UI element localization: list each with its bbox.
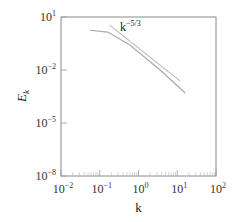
y-tick-label: 10−8: [35, 168, 56, 183]
y-tick-label: 10−5: [35, 115, 56, 130]
y-tick-labels: 10110−210−510−8: [35, 9, 56, 183]
x-tick-label: 101: [171, 181, 187, 196]
major-ticks: [61, 17, 216, 176]
spectrum-line: [90, 30, 185, 93]
x-tick-label: 10−1: [91, 181, 112, 196]
x-minor-ticks: [73, 172, 215, 176]
series-group: [90, 25, 185, 93]
plot-area-frame: [61, 17, 216, 176]
y-axis-label: Ek: [14, 89, 31, 103]
x-tick-label: 100: [133, 181, 149, 196]
y-tick-label: 10−2: [35, 62, 56, 77]
x-tick-label: 102: [210, 181, 226, 196]
x-tick-labels: 10−210−1100101102: [53, 181, 226, 196]
y-tick-label: 101: [40, 9, 56, 24]
x-axis-label: k: [135, 200, 142, 215]
spectrum-chart: 10110−210−510−8 10−210−1100101102 k−5/3 …: [0, 0, 237, 222]
x-tick-label: 10−2: [53, 181, 74, 196]
svg-text:Ek: Ek: [14, 89, 31, 103]
slope-annotation: k−5/3: [120, 19, 141, 34]
